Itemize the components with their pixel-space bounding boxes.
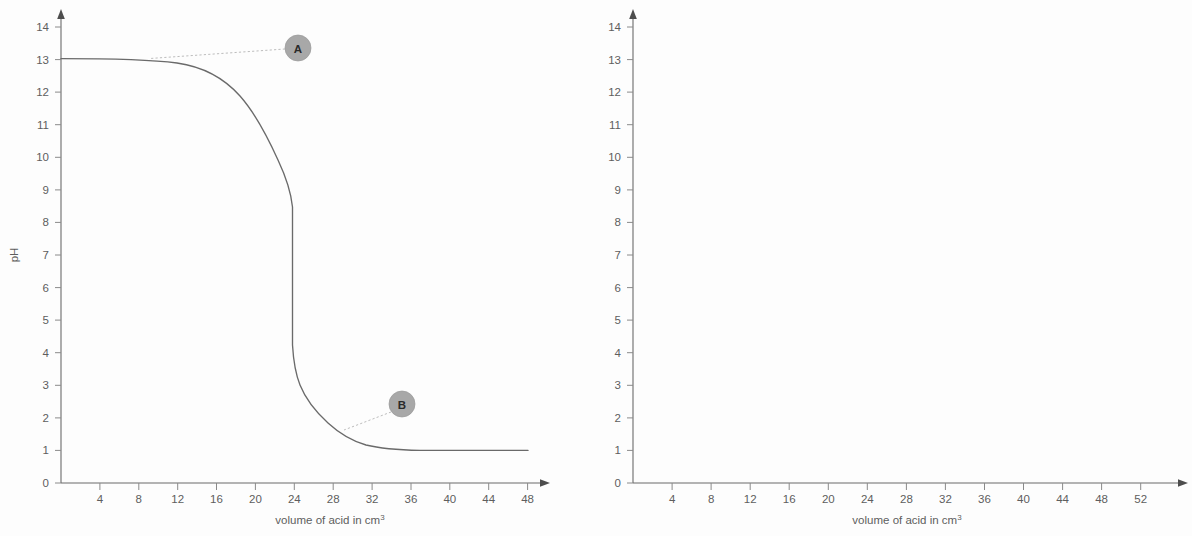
marker-b-leader-line bbox=[344, 412, 391, 430]
y-tick-label: 5 bbox=[615, 314, 621, 326]
y-tick-label: 10 bbox=[36, 151, 49, 163]
x-tick-label: 20 bbox=[822, 493, 835, 505]
x-axis-title-superscript: 3 bbox=[380, 513, 385, 522]
x-tick-label: 12 bbox=[171, 493, 184, 505]
marker-a-leader-line bbox=[150, 49, 285, 59]
x-axis-tick-labels: 4 8 12 16 20 24 28 32 36 40 44 48 bbox=[97, 493, 534, 505]
y-tick-label: 9 bbox=[43, 184, 49, 196]
x-axis-title-text: volume of acid in cm bbox=[275, 514, 380, 526]
x-tick-label: 52 bbox=[1134, 493, 1147, 505]
y-axis-tick-labels: 0 1 2 3 4 5 6 7 8 9 10 11 12 13 14 bbox=[36, 21, 49, 489]
y-tick-label: 3 bbox=[43, 379, 49, 391]
y-axis-tick-labels: 0 1 2 3 4 5 6 7 8 9 10 11 12 13 14 bbox=[608, 21, 621, 489]
y-tick-label: 3 bbox=[615, 379, 621, 391]
chart-page: 0 1 2 3 4 5 6 7 8 9 10 11 12 13 14 pH bbox=[0, 0, 1192, 536]
y-tick-label: 6 bbox=[615, 282, 621, 294]
y-tick-label: 5 bbox=[43, 314, 49, 326]
x-tick-label: 40 bbox=[1017, 493, 1030, 505]
y-tick-label: 12 bbox=[36, 86, 49, 98]
y-tick-label: 7 bbox=[43, 249, 49, 261]
x-tick-label: 24 bbox=[288, 493, 301, 505]
titration-curve-line bbox=[61, 59, 528, 451]
x-tick-label: 36 bbox=[405, 493, 418, 505]
x-axis-title: volume of acid in cm3 bbox=[275, 513, 385, 527]
y-tick-label: 0 bbox=[615, 477, 621, 489]
x-tick-label: 48 bbox=[1095, 493, 1108, 505]
x-tick-label: 48 bbox=[521, 493, 534, 505]
y-axis-ticks bbox=[627, 27, 633, 483]
x-axis-title: volume of acid in cm3 bbox=[852, 513, 962, 527]
x-tick-label: 44 bbox=[482, 493, 495, 505]
x-tick-label: 8 bbox=[708, 493, 714, 505]
x-axis-ticks bbox=[100, 483, 528, 490]
x-tick-label: 28 bbox=[900, 493, 913, 505]
y-axis-group-left: 0 1 2 3 4 5 6 7 8 9 10 11 12 13 14 pH bbox=[8, 9, 65, 489]
blank-grid-chart-panel: 0 1 2 3 4 5 6 7 8 9 10 11 12 13 14 pH bbox=[596, 0, 1192, 536]
titration-curve-chart-panel: 0 1 2 3 4 5 6 7 8 9 10 11 12 13 14 pH bbox=[0, 0, 596, 536]
y-tick-label: 9 bbox=[615, 184, 621, 196]
x-axis-group-left: 4 8 12 16 20 24 28 32 36 40 44 48 volume… bbox=[61, 479, 550, 526]
x-tick-label: 4 bbox=[669, 493, 676, 505]
y-tick-label: 8 bbox=[615, 216, 621, 228]
y-tick-label: 1 bbox=[43, 444, 49, 456]
y-axis-group-right: 0 1 2 3 4 5 6 7 8 9 10 11 12 13 14 pH bbox=[596, 9, 637, 489]
y-axis-arrow-icon bbox=[629, 9, 637, 19]
y-tick-label: 2 bbox=[615, 412, 621, 424]
y-axis-ticks bbox=[55, 27, 61, 483]
titration-curve-chart-svg: 0 1 2 3 4 5 6 7 8 9 10 11 12 13 14 pH bbox=[0, 0, 596, 536]
y-axis-arrow-icon bbox=[57, 9, 65, 19]
y-tick-label: 10 bbox=[608, 151, 621, 163]
x-tick-label: 44 bbox=[1056, 493, 1069, 505]
y-tick-label: 13 bbox=[36, 54, 49, 66]
x-tick-label: 36 bbox=[978, 493, 991, 505]
marker-a-group[interactable]: A bbox=[150, 35, 311, 61]
x-axis-group-right: 4 8 12 16 20 24 28 32 36 40 44 48 52 vol… bbox=[633, 479, 1188, 526]
x-tick-label: 16 bbox=[210, 493, 223, 505]
x-axis-arrow-icon bbox=[1178, 479, 1188, 487]
x-tick-label: 16 bbox=[783, 493, 796, 505]
y-tick-label: 11 bbox=[609, 119, 621, 131]
y-tick-label: 1 bbox=[615, 444, 621, 456]
x-axis-tick-labels: 4 8 12 16 20 24 28 32 36 40 44 48 52 bbox=[669, 493, 1147, 505]
blank-grid-chart-svg: 0 1 2 3 4 5 6 7 8 9 10 11 12 13 14 pH bbox=[596, 0, 1192, 536]
y-tick-label: 4 bbox=[615, 347, 622, 359]
y-tick-label: 13 bbox=[608, 54, 621, 66]
y-axis-title: pH bbox=[8, 248, 20, 263]
x-tick-label: 20 bbox=[249, 493, 262, 505]
x-tick-label: 8 bbox=[136, 493, 142, 505]
x-tick-label: 24 bbox=[861, 493, 874, 505]
x-tick-label: 32 bbox=[366, 493, 379, 505]
y-tick-label: 14 bbox=[608, 21, 621, 33]
y-tick-label: 8 bbox=[43, 216, 49, 228]
y-tick-label: 0 bbox=[43, 477, 49, 489]
y-tick-label: 12 bbox=[608, 86, 621, 98]
marker-b-label: B bbox=[398, 399, 406, 411]
x-axis-ticks bbox=[672, 483, 1141, 490]
x-axis-title-superscript: 3 bbox=[957, 513, 962, 522]
x-tick-label: 28 bbox=[327, 493, 340, 505]
x-tick-label: 40 bbox=[443, 493, 456, 505]
marker-b-group[interactable]: B bbox=[344, 391, 415, 430]
y-tick-label: 6 bbox=[43, 282, 49, 294]
y-tick-label: 7 bbox=[615, 249, 621, 261]
x-axis-arrow-icon bbox=[540, 479, 550, 487]
x-tick-label: 32 bbox=[939, 493, 952, 505]
y-tick-label: 11 bbox=[37, 119, 49, 131]
x-axis-title-text: volume of acid in cm bbox=[852, 514, 957, 526]
x-tick-label: 4 bbox=[97, 493, 104, 505]
y-tick-label: 2 bbox=[43, 412, 49, 424]
y-tick-label: 4 bbox=[43, 347, 50, 359]
marker-a-label: A bbox=[294, 43, 302, 55]
x-tick-label: 12 bbox=[744, 493, 757, 505]
y-tick-label: 14 bbox=[36, 21, 49, 33]
